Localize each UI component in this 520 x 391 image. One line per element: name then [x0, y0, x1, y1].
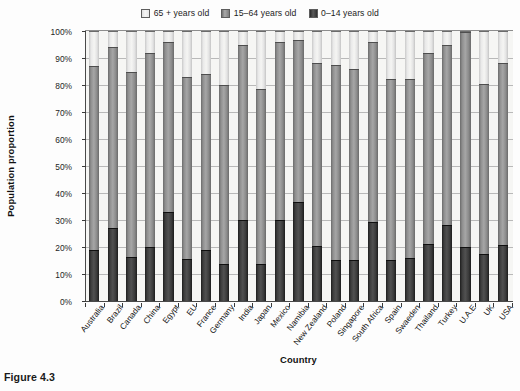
x-tick-mark	[196, 303, 197, 307]
segment-0-14	[219, 264, 229, 301]
x-tick-mark	[512, 303, 513, 307]
bar-germany[interactable]	[219, 31, 229, 301]
y-tick-label: 100%	[40, 27, 72, 37]
legend-label-65-plus: 65 + years old	[154, 8, 210, 18]
x-tick-mark	[159, 303, 160, 307]
figure-4-3: 65 + years old 15–64 years old 0–14 year…	[0, 0, 520, 391]
segment-0-14	[182, 259, 192, 301]
y-tick-label: 30%	[40, 216, 72, 226]
segment-65-plus	[386, 31, 396, 79]
segment-15-64	[163, 42, 173, 212]
legend-label-15-64: 15–64 years old	[234, 8, 297, 18]
bar-canada[interactable]	[126, 31, 136, 301]
segment-65-plus	[368, 31, 378, 42]
y-tick-label: 80%	[40, 81, 72, 91]
segment-65-plus	[498, 31, 508, 63]
bar-usa[interactable]	[498, 31, 508, 301]
bar-australia[interactable]	[89, 31, 99, 301]
segment-0-14	[293, 202, 303, 301]
segment-0-14	[145, 247, 155, 301]
legend-entry-65-plus: 65 + years old	[141, 8, 209, 18]
segment-65-plus	[349, 31, 359, 69]
bar-uk[interactable]	[479, 31, 489, 301]
y-tick-label: 40%	[40, 189, 72, 199]
segment-65-plus	[423, 31, 433, 53]
legend-swatch-15-64	[221, 9, 230, 18]
segment-0-14	[405, 258, 415, 301]
segment-0-14	[163, 212, 173, 301]
segment-65-plus	[256, 31, 266, 89]
bar-brazil[interactable]	[108, 31, 118, 301]
segment-65-plus	[442, 31, 452, 45]
segment-15-64	[405, 79, 415, 258]
segment-15-64	[460, 32, 470, 247]
segment-65-plus	[163, 31, 173, 42]
bar-group	[85, 31, 512, 301]
segment-15-64	[219, 85, 229, 264]
y-tick-label: 50%	[40, 162, 72, 172]
x-tick-mark	[289, 303, 290, 307]
segment-15-64	[293, 40, 303, 202]
x-tick-mark	[141, 303, 142, 307]
segment-0-14	[275, 220, 285, 301]
segment-15-64	[479, 84, 489, 254]
bar-south-africa[interactable]	[368, 31, 378, 301]
x-tick-mark	[308, 303, 309, 307]
segment-65-plus	[201, 31, 211, 74]
bar-spain[interactable]	[386, 31, 396, 301]
segment-0-14	[423, 244, 433, 301]
bar-u-a-e[interactable]	[460, 31, 470, 301]
bar-turkey[interactable]	[442, 31, 452, 301]
x-tick-mark	[122, 303, 123, 307]
segment-0-14	[89, 250, 99, 301]
y-tick-label: 20%	[40, 243, 72, 253]
x-tick-mark	[326, 303, 327, 307]
x-tick-mark	[456, 303, 457, 307]
segment-65-plus	[479, 31, 489, 84]
bar-thailand[interactable]	[423, 31, 433, 301]
segment-15-64	[312, 63, 322, 245]
segment-15-64	[145, 53, 155, 247]
segment-0-14	[126, 257, 136, 301]
segment-65-plus	[182, 31, 192, 77]
segment-15-64	[423, 53, 433, 244]
x-tick-mark	[363, 303, 364, 307]
legend-label-0-14: 0–14 years old	[321, 8, 379, 18]
bar-eu[interactable]	[182, 31, 192, 301]
segment-0-14	[386, 260, 396, 301]
segment-65-plus	[126, 31, 136, 72]
segment-15-64	[108, 47, 118, 228]
segment-0-14	[238, 220, 248, 301]
bar-egypt[interactable]	[163, 31, 173, 301]
bar-china[interactable]	[145, 31, 155, 301]
x-tick-mark	[215, 303, 216, 307]
segment-15-64	[442, 45, 452, 226]
y-tick-label: 90%	[40, 54, 72, 64]
x-tick-mark	[85, 303, 86, 307]
segment-65-plus	[312, 31, 322, 63]
chart-legend: 65 + years old 15–64 years old 0–14 year…	[95, 5, 425, 21]
bar-japan[interactable]	[256, 31, 266, 301]
y-tick-label: 60%	[40, 135, 72, 145]
segment-15-64	[89, 66, 99, 250]
bar-france[interactable]	[201, 31, 211, 301]
x-tick-mark	[345, 303, 346, 307]
segment-65-plus	[331, 31, 341, 65]
bar-mexico[interactable]	[275, 31, 285, 301]
bar-namibia[interactable]	[293, 31, 303, 301]
segment-65-plus	[89, 31, 99, 66]
segment-65-plus	[219, 31, 229, 85]
y-tick-label: 0%	[40, 297, 72, 307]
legend-entry-0-14: 0–14 years old	[309, 8, 379, 18]
segment-0-14	[498, 245, 508, 301]
segment-65-plus	[275, 31, 285, 42]
bar-swaeden[interactable]	[405, 31, 415, 301]
bar-new-zealand[interactable]	[312, 31, 322, 301]
segment-65-plus	[238, 31, 248, 45]
y-tick-label: 10%	[40, 270, 72, 280]
bar-india[interactable]	[238, 31, 248, 301]
bar-poland[interactable]	[331, 31, 341, 301]
segment-15-64	[275, 42, 285, 220]
bar-singapore[interactable]	[349, 31, 359, 301]
x-tick-mark	[401, 303, 402, 307]
